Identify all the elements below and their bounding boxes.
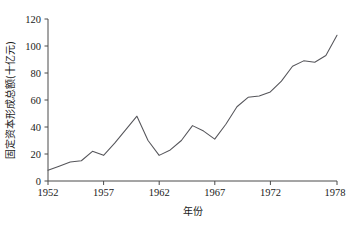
x-axis-title: 年份 — [183, 205, 203, 217]
y-tick-label: 120 — [25, 14, 41, 25]
y-tick-label: 40 — [31, 122, 42, 133]
y-tick-label: 60 — [31, 95, 42, 106]
y-tick-label: 0 — [36, 176, 41, 187]
x-tick-label: 1972 — [260, 187, 281, 198]
x-tick-label: 1967 — [204, 187, 225, 198]
x-tick-label: 1962 — [149, 187, 170, 198]
x-tick-label: 1952 — [38, 187, 59, 198]
x-tick-label: 1978 — [325, 187, 346, 198]
x-tick-label: 1957 — [93, 187, 114, 198]
y-tick-label: 80 — [31, 68, 42, 79]
chart-figure: 0 20 40 60 80 100 120 1952 1957 1962 196… — [0, 0, 348, 225]
y-tick-label: 100 — [25, 41, 41, 52]
y-tick-label: 20 — [31, 149, 42, 160]
y-axis-title: 固定资本形成总额(十亿元) — [4, 41, 16, 159]
line-chart-svg: 0 20 40 60 80 100 120 1952 1957 1962 196… — [0, 0, 348, 225]
